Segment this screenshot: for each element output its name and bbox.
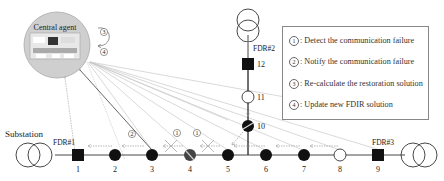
fdr1-label: FDR#1 xyxy=(53,138,75,147)
step-4-marker: 4 xyxy=(100,48,107,55)
svg-text:4: 4 xyxy=(103,49,106,55)
step-1-icon: 1 xyxy=(289,36,299,46)
node-3-switch[interactable]: 3 xyxy=(146,149,158,174)
svg-text:2: 2 xyxy=(131,131,134,137)
step-1-marker-b: 1 xyxy=(193,129,200,136)
node-4-switch-faulted[interactable]: 4 xyxy=(184,149,196,174)
node-9-breaker[interactable]: 9 xyxy=(372,149,384,174)
node-12-breaker[interactable]: 12 xyxy=(242,58,265,70)
node-6-switch[interactable]: 6 xyxy=(260,149,272,174)
svg-text:8: 8 xyxy=(338,165,342,174)
central-agent: Central agent xyxy=(24,12,90,78)
svg-text:3: 3 xyxy=(103,29,106,35)
legend-item-1: 1: Detect the communication failure xyxy=(289,36,414,46)
substation-transformer-icon xyxy=(16,143,52,167)
svg-text:9: 9 xyxy=(376,165,380,174)
legend-item-4: 4: Update new FDIR solution xyxy=(289,100,393,110)
node-8-switch-open[interactable]: 8 xyxy=(334,149,346,174)
svg-text:5: 5 xyxy=(226,165,230,174)
step-3-icon: 3 xyxy=(289,79,299,89)
svg-text:1: 1 xyxy=(196,130,199,136)
node-10-switch-faulted[interactable]: 10 xyxy=(242,120,265,132)
fdr2-label: FDR#2 xyxy=(253,44,275,53)
legend-item-2: 2: Notify the communication failure xyxy=(289,57,414,67)
node-5-switch[interactable]: 5 xyxy=(222,149,234,174)
svg-text:1: 1 xyxy=(76,165,80,174)
svg-text:1: 1 xyxy=(176,130,179,136)
fdr3-transformer-icon xyxy=(401,143,437,167)
legend: 1: Detect the communication failure 2: N… xyxy=(282,26,429,120)
svg-text:11: 11 xyxy=(257,93,265,102)
svg-text:6: 6 xyxy=(264,165,268,174)
step-2-icon: 2 xyxy=(289,57,299,67)
step-3-marker: 3 xyxy=(100,28,107,35)
node-11-switch-open[interactable]: 11 xyxy=(242,91,265,103)
fdr3-label: FDR#3 xyxy=(372,138,394,147)
legend-item-3: 3: Re-calculate the restoration solution xyxy=(289,79,423,89)
step-2-marker: 2 xyxy=(128,130,135,137)
svg-text:2: 2 xyxy=(113,165,117,174)
svg-text:3: 3 xyxy=(150,165,154,174)
node-2-switch[interactable]: 2 xyxy=(109,149,121,174)
svg-text:10: 10 xyxy=(257,122,265,131)
substation-label: Substation xyxy=(5,129,44,139)
node-1-breaker[interactable]: 1 xyxy=(72,149,84,174)
notify-arrow xyxy=(80,70,152,150)
step-1-marker-a: 1 xyxy=(173,129,180,136)
svg-text:12: 12 xyxy=(257,60,265,69)
central-agent-label: Central agent xyxy=(34,23,78,32)
node-7-switch[interactable]: 7 xyxy=(298,149,310,174)
step-4-icon: 4 xyxy=(289,100,299,110)
svg-text:4: 4 xyxy=(188,165,192,174)
svg-text:7: 7 xyxy=(302,165,306,174)
